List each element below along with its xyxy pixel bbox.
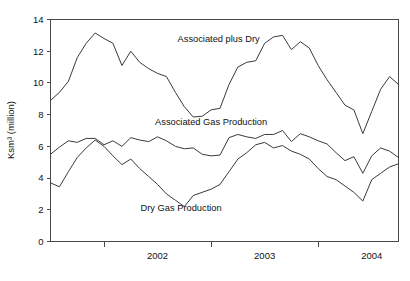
x-axis-ticks	[104, 242, 318, 247]
series-line-dry-gas-production	[51, 140, 399, 207]
x-axis-tick-labels: 200220032004	[147, 250, 382, 261]
y-axis-tick-labels: 02468101214	[33, 14, 44, 247]
x-tick-label-2004: 2004	[361, 250, 382, 261]
y-tick-label-8: 8	[38, 109, 43, 120]
series-line-associated-gas-production	[51, 131, 399, 174]
y-tick-label-2: 2	[38, 204, 43, 215]
y-axis-title: Ksm³ (million)	[5, 101, 16, 159]
chart-canvas: 02468101214 200220032004 Associated plus…	[0, 0, 410, 281]
annotation-associated-plus-dry: Associated plus Dry	[178, 34, 261, 44]
y-tick-label-6: 6	[38, 141, 43, 152]
y-tick-label-12: 12	[33, 46, 44, 57]
x-tick-label-2002: 2002	[147, 250, 168, 261]
y-tick-label-0: 0	[38, 236, 43, 247]
y-tick-label-4: 4	[38, 172, 43, 183]
y-tick-label-10: 10	[33, 77, 44, 88]
y-axis-title-text: Ksm³ (million)	[5, 101, 16, 159]
y-tick-label-14: 14	[33, 14, 44, 25]
gas-production-line-chart: 02468101214 200220032004 Associated plus…	[0, 0, 410, 281]
y-axis-ticks	[47, 20, 51, 242]
series-annotations: Associated plus DryAssociated Gas Produc…	[141, 34, 268, 213]
x-tick-label-2003: 2003	[254, 250, 275, 261]
annotation-dry-gas-production: Dry Gas Production	[141, 203, 222, 213]
annotation-associated-gas-production: Associated Gas Production	[155, 117, 267, 127]
plot-frame	[51, 20, 399, 242]
